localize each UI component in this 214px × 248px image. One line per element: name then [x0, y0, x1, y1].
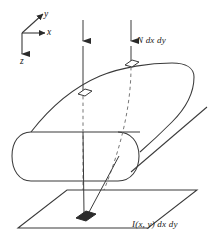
- slab-top-back-edge: [31, 63, 194, 132]
- axis-label-y: y: [44, 10, 48, 20]
- irradiance-label: I(x, y) dx dy: [132, 220, 178, 229]
- converging-ray-right: [88, 156, 119, 214]
- flux-label: N dx dy: [137, 36, 166, 45]
- axis-label-z: z: [20, 57, 24, 67]
- axis-y-arrow: [22, 14, 43, 33]
- converging-rays: [83, 132, 119, 214]
- dashed-ray-right: [104, 67, 131, 190]
- slab-solid: [12, 63, 207, 181]
- figure-container: y x z N dx dy I(x, y) dx dy: [0, 0, 214, 248]
- coordinate-triad: [22, 14, 45, 54]
- diagram-canvas: [0, 0, 214, 248]
- slab-bottom-receding-edge: [131, 107, 207, 172]
- surface-patches: [78, 60, 139, 96]
- slab-front-left-cap: [12, 132, 31, 181]
- plane-patch: [76, 211, 96, 221]
- converging-ray-left: [83, 132, 84, 214]
- incident-rays: [83, 20, 131, 93]
- internal-ray-paths: [83, 67, 131, 190]
- axis-label-x: x: [47, 28, 51, 38]
- surface-patch-front: [78, 89, 92, 96]
